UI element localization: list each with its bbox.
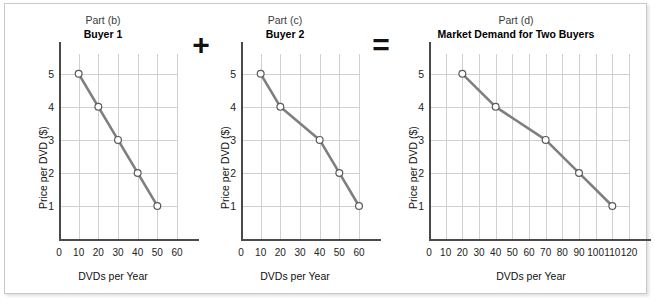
demand-curve	[241, 54, 379, 259]
y-tick-label: 5	[38, 68, 54, 80]
data-point-marker	[115, 136, 122, 143]
demand-curve	[429, 54, 649, 259]
y-tick-label: 4	[220, 101, 236, 113]
demand-curve	[59, 54, 197, 259]
data-point-marker	[75, 70, 82, 77]
data-point-marker	[492, 103, 499, 110]
y-tick-label: 5	[220, 68, 236, 80]
figure-frame: Part (b) Buyer 1 123450102030405060 Pric…	[4, 3, 647, 294]
y-axis-title-d: Price per DVD ($)	[407, 126, 419, 209]
data-point-marker	[316, 136, 323, 143]
x-axis-title-b: DVDs per Year	[43, 270, 183, 283]
x-axis-title-c: DVDs per Year	[225, 270, 365, 283]
panel-buyer-1: Part (b) Buyer 1 123450102030405060 Pric…	[23, 4, 183, 295]
data-point-marker	[542, 136, 549, 143]
part-label-c: Part (c)	[205, 14, 365, 27]
panel-c-header: Part (c) Buyer 2	[205, 14, 365, 41]
panel-b-header: Part (b) Buyer 1	[23, 14, 183, 41]
panel-title-b: Buyer 1	[23, 27, 183, 41]
y-tick-label: 4	[38, 101, 54, 113]
data-point-marker	[336, 170, 343, 177]
part-label-d: Part (d)	[391, 14, 641, 27]
plot-area-b: 123450102030405060	[59, 54, 177, 239]
data-point-marker	[154, 203, 161, 210]
data-point-marker	[356, 203, 363, 210]
demand-curve-line	[261, 74, 359, 206]
panel-d-header: Part (d) Market Demand for Two Buyers	[391, 14, 641, 41]
x-axis-title-d: DVDs per Year	[431, 270, 631, 283]
plot-canvas-c: 123450102030405060	[241, 54, 359, 239]
plot-area-c: 123450102030405060	[241, 54, 359, 239]
plot-canvas-b: 123450102030405060	[59, 54, 177, 239]
y-tick-label: 5	[408, 68, 424, 80]
part-label-b: Part (b)	[23, 14, 183, 27]
panel-buyer-2: Part (c) Buyer 2 123450102030405060 Pric…	[205, 4, 365, 295]
data-point-marker	[576, 170, 583, 177]
demand-curve-line	[462, 74, 612, 206]
plot-area-d: 123450102030405060708090100110120	[429, 54, 629, 239]
data-point-marker	[134, 170, 141, 177]
data-point-marker	[609, 203, 616, 210]
panel-title-c: Buyer 2	[205, 27, 365, 41]
data-point-marker	[257, 70, 264, 77]
y-axis-title-b: Price per DVD ($)	[37, 126, 49, 209]
panel-market-demand: Part (d) Market Demand for Two Buyers 12…	[391, 4, 641, 295]
panel-title-d: Market Demand for Two Buyers	[391, 27, 641, 41]
data-point-marker	[459, 70, 466, 77]
plot-canvas-d: 123450102030405060708090100110120	[429, 54, 629, 239]
y-axis-title-c: Price per DVD ($)	[219, 126, 231, 209]
y-tick-label: 4	[408, 101, 424, 113]
data-point-marker	[95, 103, 102, 110]
data-point-marker	[277, 103, 284, 110]
